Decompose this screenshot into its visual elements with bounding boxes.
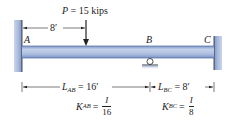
equals-sign: = [179, 102, 185, 112]
length-subscript: BC [164, 86, 172, 93]
point-a-label: A [24, 35, 30, 45]
load-arrow-icon [83, 20, 89, 46]
stiffness-symbol: K [76, 102, 83, 112]
length-ab-label: LAB = 16′ [62, 82, 98, 94]
stiffness-fraction: I 16 [102, 96, 111, 117]
stiffness-subscript: AB [83, 103, 91, 110]
stiffness-bc-label: KBC = I 8 [162, 96, 194, 117]
fixed-support-c [214, 36, 222, 70]
load-value: 15 kips [79, 5, 108, 16]
point-c-label: C [204, 35, 211, 45]
fixed-support-a [14, 20, 22, 72]
equals-sign: = [93, 102, 99, 112]
roller-support-b [142, 59, 158, 70]
load-distance-label: 8′ [50, 23, 57, 33]
fraction-numerator: I [189, 96, 194, 105]
length-bc-label: LBC = 8′ [158, 82, 190, 94]
beam-diagram [0, 0, 230, 128]
length-value: = 8′ [174, 81, 189, 92]
fraction-denominator: 16 [102, 108, 111, 117]
stiffness-fraction: I 8 [189, 96, 194, 117]
length-value: = 16′ [78, 81, 98, 92]
point-b-label: B [146, 35, 152, 45]
fraction-numerator: I [104, 96, 109, 105]
load-symbol: P [62, 5, 68, 16]
beam [22, 46, 214, 58]
stiffness-symbol: K [162, 102, 169, 112]
load-label: P = 15 kips [62, 6, 108, 16]
fraction-denominator: 8 [189, 108, 194, 117]
stiffness-subscript: BC [169, 103, 177, 110]
length-subscript: AB [68, 86, 76, 93]
stiffness-ab-label: KAB = I 16 [76, 96, 111, 117]
